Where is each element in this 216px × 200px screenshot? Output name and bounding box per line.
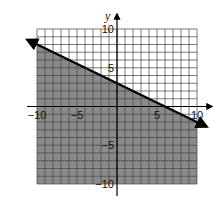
y-tick-label: 5 <box>108 62 114 74</box>
x-tick-label: 5 <box>154 109 160 121</box>
inequality-graph: y−10−5510105−5−10 <box>0 0 216 200</box>
y-axis-label: y <box>104 9 111 23</box>
y-tick-label: −5 <box>101 139 114 151</box>
coordinate-plane: y−10−5510105−5−10 <box>0 0 216 200</box>
x-tick-label: 10 <box>191 109 203 121</box>
y-tick-label: 10 <box>102 23 114 35</box>
x-tick-label: −10 <box>28 109 47 121</box>
y-tick-label: −10 <box>95 178 114 190</box>
x-tick-label: −5 <box>71 109 84 121</box>
